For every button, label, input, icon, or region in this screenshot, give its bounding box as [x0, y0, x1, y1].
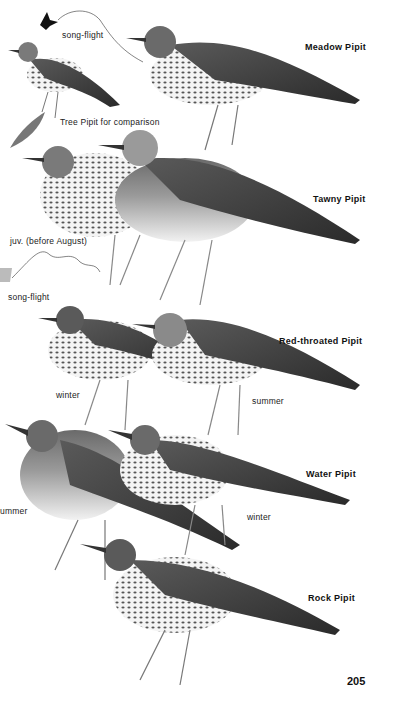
redthroated-pipit-summer-illustration — [132, 313, 360, 435]
rock-pipit-label: Rock Pipit — [308, 593, 355, 603]
tawny-pipit-label: Tawny Pipit — [313, 194, 366, 204]
water-summer-label: ummer — [0, 506, 27, 516]
tawny-juv-label: juv. (before August) — [10, 236, 87, 246]
tawny-songflight-label: song-flight — [8, 292, 49, 302]
bird-illustrations — [0, 0, 397, 718]
rock-pipit-illustration — [80, 539, 340, 685]
page-number: 205 — [347, 675, 365, 687]
redthroated-summer-label: summer — [252, 396, 284, 406]
redthroated-winter-label: winter — [56, 390, 80, 400]
field-guide-plate: song-flight Meadow Pipit Tree Pipit for … — [0, 0, 397, 718]
tree-pipit-illustration — [8, 42, 120, 148]
meadow-pipit-label: Meadow Pipit — [305, 42, 366, 52]
water-pipit-winter-illustration — [108, 425, 350, 555]
redthroated-pipit-label: Red-throated Pipit — [279, 336, 362, 346]
tawny-pipit-adult-illustration — [98, 130, 360, 305]
water-winter-label: winter — [247, 512, 271, 522]
meadow-songflight-label: song-flight — [62, 30, 103, 40]
tawny-songflight-icon — [0, 252, 100, 282]
water-pipit-label: Water Pipit — [306, 469, 356, 479]
tree-pipit-label: Tree Pipit for comparison — [60, 117, 160, 127]
